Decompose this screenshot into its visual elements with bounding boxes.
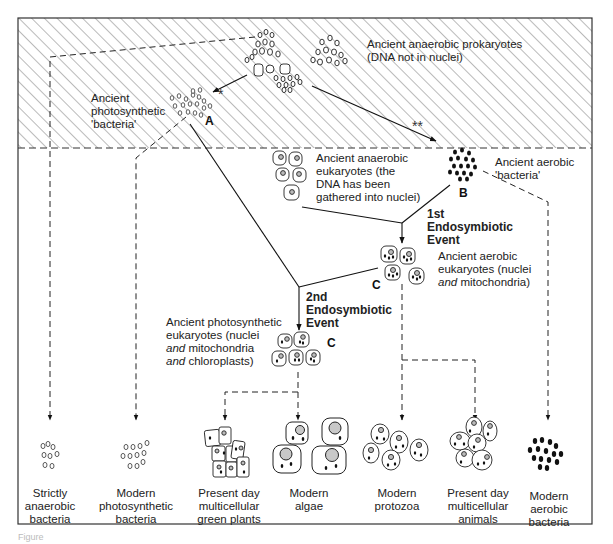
label-line: DNA has been xyxy=(316,178,420,191)
label-line: Event xyxy=(427,234,513,247)
modern-group-photosynthetic-bacteria: Modern photosynthetic bacteria xyxy=(88,487,184,526)
label-line: eukaryotes (nuclei xyxy=(438,263,531,276)
ancient-photosynthetic-bacteria-label: Ancient photosynthetic 'bacteria' xyxy=(91,92,165,131)
label-line: 'bacteria' xyxy=(495,169,574,182)
first-endosymbiotic-event-label: 1st Endosymbiotic Event xyxy=(427,208,513,247)
label-line: algae xyxy=(276,500,342,513)
italic-word: and xyxy=(166,342,185,354)
label-line: animals xyxy=(438,513,518,526)
label-line: and chloroplasts) xyxy=(166,355,282,368)
label-line: 'bacteria' xyxy=(91,118,165,131)
label-line: and mitochondria xyxy=(166,342,282,355)
label-line: Modern xyxy=(88,487,184,500)
label-line: Modern xyxy=(362,487,432,500)
label-text: mitochondria) xyxy=(457,276,530,288)
figure-caption: Figure xyxy=(18,532,44,542)
label-line: Present day xyxy=(186,487,272,500)
modern-group-green-plants: Present day multicellular green plants xyxy=(186,487,272,526)
label-line: Ancient xyxy=(91,92,165,105)
modern-group-aerobic-bacteria: Modern aerobic bacteria xyxy=(518,490,580,529)
modern-group-animals: Present day multicellular animals xyxy=(438,487,518,526)
label-line: (DNA not in nuclei) xyxy=(367,51,522,64)
label-line: anaerobic xyxy=(10,500,90,513)
label-line: bacteria xyxy=(10,513,90,526)
green-plants-cells-icon xyxy=(204,427,249,477)
label-text: mitochondria xyxy=(185,342,254,354)
label-line: Ancient photosynthetic xyxy=(166,316,282,329)
label-line: eukaryotes (the xyxy=(316,165,420,178)
label-line: eukaryotes (nuclei xyxy=(166,329,282,342)
italic-word: and xyxy=(166,355,185,367)
label-line: aerobic xyxy=(518,503,580,516)
label-line: Present day xyxy=(438,487,518,500)
label-line: Ancient aerobic xyxy=(438,250,531,263)
label-line: multicellular xyxy=(186,500,272,513)
label-line: green plants xyxy=(186,513,272,526)
label-line: multicellular xyxy=(438,500,518,513)
label-line: Event xyxy=(306,317,392,330)
label-c-photosynthetic: C xyxy=(327,336,336,350)
endosymbiosis-diagram: Ancient anaerobic prokaryotes (DNA not i… xyxy=(0,0,613,544)
label-line: bacteria xyxy=(88,513,184,526)
lineage-animals xyxy=(402,360,475,420)
label-a: A xyxy=(205,114,214,128)
second-endosymbiotic-event-label: 2nd Endosymbiotic Event xyxy=(306,291,392,330)
label-line: protozoa xyxy=(362,500,432,513)
modern-aerobic-bacteria-icon xyxy=(528,437,563,471)
label-line: Ancient aerobic xyxy=(495,156,574,169)
label-line: Modern xyxy=(276,487,342,500)
anaerobic-eukaryotes-icon xyxy=(273,151,306,200)
label-line: photosynthetic xyxy=(88,500,184,513)
label-line: Strictly xyxy=(10,487,90,500)
lineage-photosynthetic-bacteria xyxy=(136,117,186,420)
aerobic-eukaryotes-label: Ancient aerobic eukaryotes (nuclei and m… xyxy=(438,250,531,289)
strictly-anaerobic-bacteria-icon xyxy=(41,441,59,468)
italic-word: and xyxy=(438,276,457,288)
multicellular-animals-cells-icon xyxy=(450,417,497,470)
label-text: chloroplasts) xyxy=(185,355,253,367)
label-line: Ancient anaerobic prokaryotes xyxy=(367,38,522,51)
label-line: and mitochondria) xyxy=(438,276,531,289)
label-b: B xyxy=(459,186,468,200)
lineage-green-plants xyxy=(225,392,298,420)
label-line: gathered into nuclei) xyxy=(316,191,420,204)
line-c-to-event2 xyxy=(299,268,378,287)
label-line: Ancient anaerobic xyxy=(316,152,420,165)
double-star-marker: ** xyxy=(412,118,423,134)
modern-algae-cells-icon xyxy=(273,418,348,474)
single-star-marker: * xyxy=(218,86,223,102)
modern-photosynthetic-bacteria-icon xyxy=(121,440,149,468)
modern-group-algae: Modern algae xyxy=(276,487,342,513)
aerobic-bacteria-cluster-icon xyxy=(448,147,477,181)
anaerobic-eukaryotes-label: Ancient anaerobic eukaryotes (the DNA ha… xyxy=(316,152,420,204)
modern-group-protozoa: Modern protozoa xyxy=(362,487,432,513)
modern-protozoa-cells-icon xyxy=(363,424,428,470)
label-line: photosynthetic xyxy=(91,105,165,118)
label-c-aerobic: C xyxy=(372,278,381,292)
modern-group-strictly-anaerobic: Strictly anaerobic bacteria xyxy=(10,487,90,526)
ancient-aerobic-bacteria-label: Ancient aerobic 'bacteria' xyxy=(495,156,574,182)
line-eukaryote-to-event1 xyxy=(302,207,402,223)
photosynthetic-eukaryotes-label: Ancient photosynthetic eukaryotes (nucle… xyxy=(166,316,282,368)
label-line: Modern xyxy=(518,490,580,503)
label-line: bacteria xyxy=(518,516,580,529)
aerobic-eukaryotes-icon xyxy=(381,246,424,284)
prokaryotes-label: Ancient anaerobic prokaryotes (DNA not i… xyxy=(367,38,522,64)
